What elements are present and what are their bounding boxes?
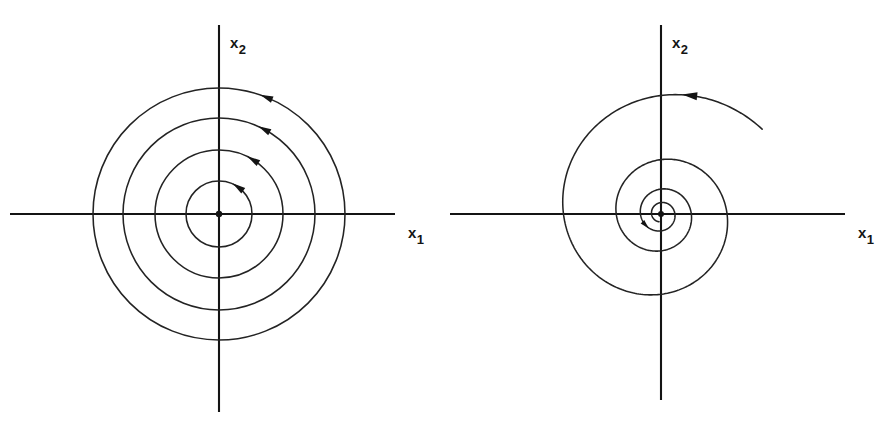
x-axis-label: x1: [858, 224, 874, 247]
stable-focus-plot-svg: x2 x1: [438, 0, 876, 428]
origin-dot: [216, 211, 222, 217]
y-axis-label: x2: [230, 34, 246, 57]
direction-arrowhead: [682, 92, 697, 100]
direction-arrows-group: [641, 92, 698, 228]
direction-arrowhead: [258, 126, 271, 135]
panel-stable-focus-phase-portrait: x2 x1: [438, 0, 876, 428]
phase-portrait-figure: x2 x1 x2 x1: [0, 0, 876, 428]
direction-arrowhead: [260, 95, 273, 103]
direction-arrowhead: [247, 156, 260, 166]
axes-group-left: [10, 25, 395, 412]
axes-group-right: [450, 25, 845, 400]
origin-dot: [658, 211, 664, 217]
panel-center-phase-portrait: x2 x1: [0, 0, 438, 428]
y-axis-label: x2: [672, 34, 688, 57]
center-plot-svg: x2 x1: [0, 0, 438, 428]
direction-arrowhead: [641, 220, 649, 228]
direction-arrows-group: [233, 95, 274, 194]
x-axis-label: x1: [408, 224, 424, 247]
spiral-curve: [563, 95, 762, 295]
